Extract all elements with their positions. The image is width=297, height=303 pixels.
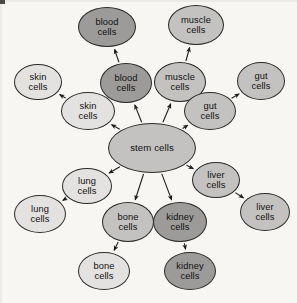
arrow-blood-inner-to-blood-outer: [115, 49, 119, 62]
node-label-stem-cells: stem cells: [130, 143, 174, 153]
diagram-canvas: stem cellsskin cellsblood cellsmuscle ce…: [0, 0, 297, 303]
arrow-kidney-inner-to-kidney-outer: [184, 243, 185, 249]
node-kidney-inner[interactable]: kidney cells: [153, 202, 207, 242]
scan-corner-artifact: [0, 0, 5, 4]
arrow-stem-cells-to-gut-inner: [183, 125, 188, 128]
node-lung-outer[interactable]: lung cells: [14, 195, 66, 233]
node-blood-outer[interactable]: blood cells: [78, 7, 136, 47]
node-label-muscle-outer: muscle cells: [181, 15, 211, 35]
node-label-bone-outer: bone cells: [93, 261, 114, 281]
arrow-stem-cells-to-liver-inner: [187, 165, 194, 168]
node-label-skin-inner: skin cells: [78, 101, 97, 121]
arrow-liver-inner-to-liver-outer: [235, 193, 243, 198]
node-stem-cells[interactable]: stem cells: [108, 123, 196, 173]
node-label-lung-inner: lung cells: [77, 176, 96, 196]
node-liver-inner[interactable]: liver cells: [192, 162, 240, 198]
arrow-gut-inner-to-gut-outer: [232, 94, 240, 98]
image-left-edge-shade: [0, 0, 2, 303]
arrow-stem-cells-to-lung-inner: [109, 167, 120, 173]
node-blood-inner[interactable]: blood cells: [100, 63, 152, 103]
node-label-blood-inner: blood cells: [114, 73, 137, 93]
node-bone-inner[interactable]: bone cells: [102, 202, 154, 242]
node-kidney-outer[interactable]: kidney cells: [164, 252, 216, 290]
arrow-stem-cells-to-bone-inner: [135, 174, 143, 200]
node-label-liver-outer: liver cells: [255, 202, 274, 222]
arrow-stem-cells-to-muscle-inner: [163, 104, 171, 122]
arrow-skin-inner-to-skin-outer: [60, 95, 66, 99]
node-skin-outer[interactable]: skin cells: [14, 64, 62, 100]
image-top-edge-shade: [0, 0, 297, 2]
node-label-bone-inner: bone cells: [117, 212, 138, 232]
node-bone-outer[interactable]: bone cells: [78, 252, 130, 290]
node-liver-outer[interactable]: liver cells: [240, 193, 290, 231]
arrow-stem-cells-to-blood-inner: [135, 105, 142, 122]
node-label-gut-outer: gut cells: [251, 71, 270, 91]
node-label-lung-outer: lung cells: [30, 204, 49, 224]
arrow-stem-cells-to-skin-inner: [112, 125, 120, 130]
node-label-blood-outer: blood cells: [95, 17, 118, 37]
node-label-kidney-outer: kidney cells: [176, 261, 203, 281]
node-skin-inner[interactable]: skin cells: [61, 92, 115, 130]
node-lung-inner[interactable]: lung cells: [62, 168, 112, 204]
arrow-bone-inner-to-bone-outer: [114, 242, 118, 250]
node-gut-outer[interactable]: gut cells: [237, 62, 285, 100]
node-gut-inner[interactable]: gut cells: [184, 92, 236, 130]
arrow-lung-inner-to-lung-outer: [63, 198, 67, 200]
node-label-gut-inner: gut cells: [200, 101, 219, 121]
arrow-muscle-inner-to-muscle-outer: [186, 48, 190, 61]
node-label-muscle-inner: muscle cells: [165, 72, 195, 92]
node-label-skin-outer: skin cells: [28, 72, 47, 92]
arrow-stem-cells-to-kidney-inner: [162, 174, 172, 200]
node-muscle-outer[interactable]: muscle cells: [168, 5, 224, 45]
node-label-kidney-inner: kidney cells: [166, 212, 193, 232]
node-label-liver-inner: liver cells: [206, 170, 225, 190]
